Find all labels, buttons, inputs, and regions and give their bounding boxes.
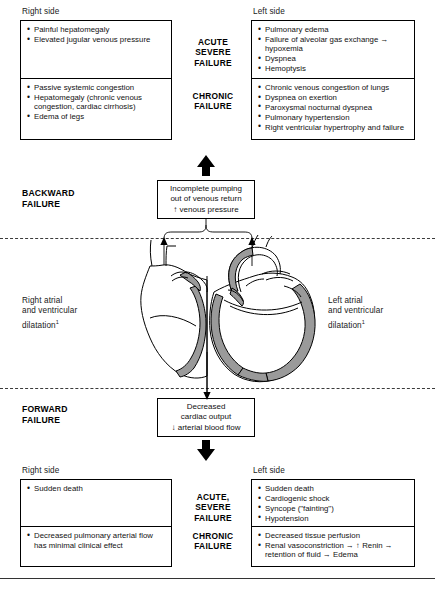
backward-left-chronic-list: Chronic venous congestion of lungs Dyspn… (258, 83, 409, 132)
list-item: Hepatomegaly (chronic venous congestion,… (27, 93, 166, 112)
forward-flow-box: Decreased cardiac output ↓ arterial bloo… (157, 398, 255, 437)
forward-left-acute-list: Sudden death Cardiogenic shock Syncope (… (258, 484, 409, 523)
heart-left-caption: Left atrial and ventricular dilatation1 (328, 296, 413, 331)
backward-dashed-separator (0, 238, 435, 239)
list-item: Sudden death (258, 484, 409, 494)
heart-left-caption-line-3: dilatation (328, 321, 362, 330)
backward-right-chronic-list: Passive systemic congestion Hepatomegaly… (27, 83, 166, 122)
forward-right-acute-list: Sudden death (27, 484, 166, 494)
left-heart-up-arrow-icon (248, 237, 255, 266)
heart-right-caption-line-1: Right atrial (22, 296, 62, 305)
forward-left-chronic-list: Decreased tissue perfusion Renal vasocon… (258, 531, 409, 560)
list-item: Renal vasoconstriction → ↑ Renin → reten… (258, 541, 409, 560)
list-item: Decreased tissue perfusion (258, 531, 409, 541)
list-item: Cardiogenic shock (258, 494, 409, 504)
heart-right-caption-superscript: 1 (56, 319, 59, 325)
backward-up-arrow-icon (197, 155, 215, 176)
forward-left-chronic-cell: Decreased tissue perfusion Renal vasocon… (252, 526, 414, 566)
forward-dashed-separator (0, 388, 435, 389)
chamber-label-ra: RA (142, 297, 155, 307)
forward-right-symptom-box: Sudden death Decreased pulmonary arteria… (20, 479, 172, 567)
backward-flow-line-2: out of venous return (158, 194, 254, 204)
backward-left-acute-cell: Pulmonary edema Failure of alveolar gas … (252, 21, 414, 78)
backward-chronic-severity-label: CHRONIC FAILURE (180, 91, 246, 112)
backward-right-symptom-box: Painful hepatomegaly Elevated jugular ve… (20, 20, 172, 140)
backward-right-chronic-cell: Passive systemic congestion Hepatomegaly… (21, 78, 171, 139)
list-item: Pulmonary hypertension (258, 113, 409, 123)
forward-right-chronic-list: Decreased pulmonary arterial flow has mi… (27, 531, 166, 550)
backward-failure-mode-label: BACKWARD FAILURE (22, 188, 75, 209)
list-item: Chronic venous congestion of lungs (258, 83, 409, 93)
page-bottom-rule (0, 578, 435, 579)
forward-right-side-header: Right side (22, 466, 59, 475)
chamber-label-lv: LV (262, 327, 273, 337)
forward-thick-down-arrow-icon (197, 440, 215, 461)
forward-left-acute-cell: Sudden death Cardiogenic shock Syncope (… (252, 480, 414, 526)
forward-failure-mode-label: FORWARD FAILURE (22, 404, 68, 425)
backward-flow-line-1: Incomplete pumping (158, 184, 254, 194)
backward-right-side-header: Right side (22, 7, 59, 16)
heart-left-caption-line-2: and ventricular (328, 306, 383, 315)
list-item: Right ventricular hypertrophy and failur… (258, 123, 409, 133)
forward-flow-line-2: cardiac output (158, 412, 254, 422)
heart-right-caption-line-2: and ventricular (22, 306, 77, 315)
list-item: Dyspnea (258, 54, 409, 64)
backward-brace (164, 219, 252, 239)
list-item: Painful hepatomegaly (27, 25, 166, 35)
backward-flow-line-3: ↑ venous pressure (158, 205, 254, 215)
backward-left-side-header: Left side (253, 7, 285, 16)
list-item: Syncope ("fainting") (258, 504, 409, 514)
forward-down-arrow-icon (203, 352, 210, 400)
backward-left-chronic-cell: Chronic venous congestion of lungs Dyspn… (252, 78, 414, 139)
list-item: Elevated jugular venous pressure (27, 35, 166, 45)
list-item: Pulmonary edema (258, 25, 409, 35)
list-item: Hemoptysis (258, 64, 409, 74)
heart-right-caption-line-3: dilatation (22, 321, 56, 330)
list-item: Dyspnea on exertion (258, 93, 409, 103)
forward-flow-line-3: ↓ arterial blood flow (158, 423, 254, 433)
heart-left-caption-line-1: Left atrial (328, 296, 363, 305)
list-item: Passive systemic congestion (27, 83, 166, 93)
list-item: Sudden death (27, 484, 166, 494)
chamber-label-la: LA (258, 285, 270, 295)
backward-right-acute-cell: Painful hepatomegaly Elevated jugular ve… (21, 21, 171, 78)
forward-acute-severity-label: ACUTE, SEVERE FAILURE (180, 492, 246, 523)
list-item: Paroxysmal nocturnal dyspnea (258, 103, 409, 113)
backward-left-acute-list: Pulmonary edema Failure of alveolar gas … (258, 25, 409, 74)
forward-left-side-header: Left side (253, 466, 285, 475)
backward-flow-box: Incomplete pumping out of venous return … (157, 180, 255, 219)
forward-right-chronic-cell: Decreased pulmonary arterial flow has mi… (21, 526, 171, 566)
heart-failure-diagram: Right side Left side Painful hepatomegal… (0, 0, 435, 591)
heart-right-caption: Right atrial and ventricular dilatation1 (22, 296, 102, 331)
forward-chronic-severity-label: CHRONIC FAILURE (180, 531, 246, 552)
forward-left-symptom-box: Sudden death Cardiogenic shock Syncope (… (251, 479, 415, 567)
heart-left-caption-superscript: 1 (362, 319, 365, 325)
forward-flow-line-1: Decreased (158, 402, 254, 412)
right-heart-up-arrow-icon (160, 237, 167, 266)
backward-right-acute-list: Painful hepatomegaly Elevated jugular ve… (27, 25, 166, 44)
chamber-label-rv: RV (163, 339, 176, 349)
list-item: Hypotension (258, 514, 409, 524)
backward-left-symptom-box: Pulmonary edema Failure of alveolar gas … (251, 20, 415, 140)
heart-illustration (141, 235, 315, 394)
forward-right-acute-cell: Sudden death (21, 480, 171, 526)
list-item: Decreased pulmonary arterial flow has mi… (27, 531, 166, 550)
backward-acute-severity-label: ACUTE SEVERE FAILURE (180, 37, 246, 68)
list-item: Edema of legs (27, 112, 166, 122)
list-item: Failure of alveolar gas exchange → hypox… (258, 35, 409, 54)
